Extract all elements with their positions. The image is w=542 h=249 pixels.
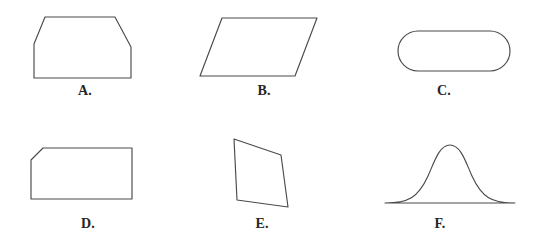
figure-sheet: A. B. C. D. E. F.: [0, 0, 542, 249]
figure-c-label: C.: [424, 84, 464, 98]
figure-b-label: B.: [244, 84, 284, 98]
figure-d-label: D.: [68, 217, 108, 231]
figure-f-label: F.: [420, 217, 460, 231]
figure-e-label: E.: [242, 217, 282, 231]
figure-a-label: A.: [65, 84, 105, 98]
